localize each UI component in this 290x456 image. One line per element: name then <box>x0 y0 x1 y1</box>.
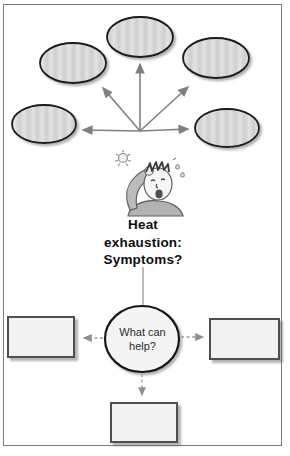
sweating-person-illustration <box>115 150 184 216</box>
symptom-node-mid-left <box>12 105 76 143</box>
heading-line-1: Heat <box>63 216 223 234</box>
help-box-right <box>209 318 280 360</box>
arrow-to-upper-right <box>140 87 188 131</box>
arrow-to-upper-left <box>103 88 140 131</box>
sun-icon <box>115 150 131 166</box>
help-box-left <box>7 316 75 358</box>
heading-line-2: exhaustion: <box>63 234 223 252</box>
heading-line-3: Symptoms? <box>63 251 223 269</box>
arrow-to-mid-right <box>140 129 188 131</box>
heading-heat-exhaustion-symptoms: Heat exhaustion: Symptoms? <box>63 216 223 269</box>
arrow-to-mid-left <box>83 130 140 131</box>
symptom-node-upper-left <box>40 43 106 83</box>
help-box-bottom <box>110 402 178 443</box>
what-can-help-label: What can help? <box>112 326 173 353</box>
symptom-node-top <box>107 17 173 57</box>
symptom-node-mid-right <box>195 109 259 147</box>
symptom-node-upper-right <box>183 38 249 78</box>
worksheet-page: Heat exhaustion: Symptoms? What can help… <box>0 0 290 456</box>
